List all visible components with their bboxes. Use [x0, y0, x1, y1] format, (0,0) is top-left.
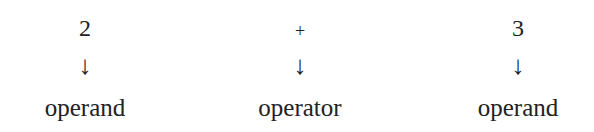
operand-value: 3 [448, 14, 588, 42]
down-arrow-icon: ↓ [230, 51, 370, 81]
operator-column: + ↓ operator [230, 0, 370, 132]
operand-label: operand [15, 93, 155, 123]
operand-label: operand [448, 93, 588, 123]
operand-column-left: 2 ↓ operand [15, 0, 155, 132]
operand-value: 2 [15, 14, 155, 42]
operand-column-right: 3 ↓ operand [448, 0, 588, 132]
down-arrow-icon: ↓ [448, 51, 588, 81]
down-arrow-icon: ↓ [15, 51, 155, 81]
operator-symbol: + [230, 17, 370, 45]
operator-label: operator [230, 93, 370, 123]
